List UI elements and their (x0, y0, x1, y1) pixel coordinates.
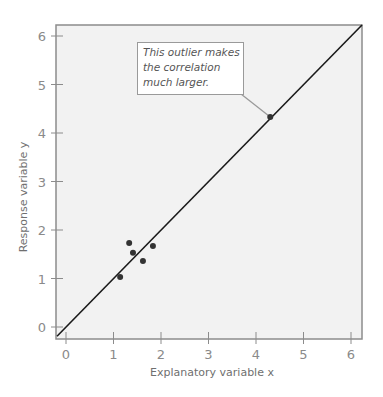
x-tick-label: 4 (252, 347, 260, 362)
y-tick-label: 1 (38, 272, 46, 287)
y-tick-label: 5 (38, 78, 46, 93)
x-tick-label: 5 (299, 347, 307, 362)
y-tick-label: 6 (38, 29, 46, 44)
annotation-line-3: much larger. (143, 75, 238, 90)
x-tick-label: 2 (157, 347, 165, 362)
annotation-line-1: This outlier makes (143, 45, 238, 60)
x-tick-label: 3 (204, 347, 212, 362)
data-point (126, 240, 132, 246)
data-point (150, 243, 156, 249)
x-axis-title: Explanatory variable x (150, 366, 274, 379)
outlier-annotation: This outlier makes the correlation much … (137, 42, 244, 95)
x-tick-label: 1 (109, 347, 117, 362)
annotation-line-2: the correlation (143, 60, 238, 75)
y-axis-title: Response variable y (17, 141, 30, 252)
data-point (267, 114, 273, 120)
data-point (117, 274, 123, 280)
y-tick-label: 4 (38, 126, 46, 141)
y-tick-label: 0 (38, 320, 46, 335)
y-tick-label: 2 (38, 223, 46, 238)
x-tick-label: 6 (347, 347, 355, 362)
x-tick-label: 0 (62, 347, 70, 362)
data-point (140, 258, 146, 264)
y-tick-label: 3 (38, 175, 46, 190)
data-point (130, 250, 136, 256)
